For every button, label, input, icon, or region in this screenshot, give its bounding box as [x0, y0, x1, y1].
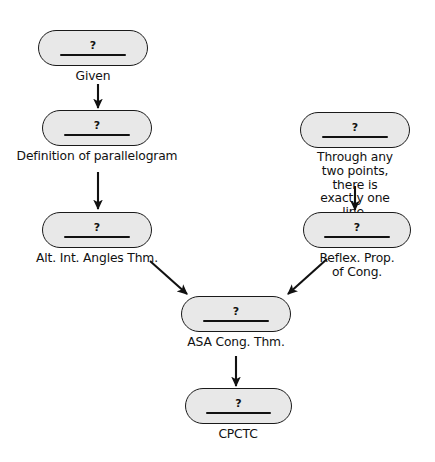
node-blank-placeholder: ? — [354, 222, 360, 233]
caption-two-points-line: Through any two points, there is exactly… — [315, 151, 395, 220]
node-answer-line[interactable] — [64, 236, 131, 238]
caption-reflex-prop: Reflex. Prop. of Cong. — [318, 252, 396, 280]
caption-given: Given — [76, 70, 111, 84]
node-two-points-line[interactable]: ? — [300, 112, 410, 148]
node-answer-line[interactable] — [322, 136, 389, 138]
node-cpctc[interactable]: ? — [185, 388, 292, 424]
node-answer-line[interactable] — [206, 412, 271, 414]
node-asa-cong[interactable]: ? — [181, 296, 291, 332]
node-blank-placeholder: ? — [233, 306, 239, 317]
node-given[interactable]: ? — [38, 30, 148, 66]
arrow-alt-to-asa — [150, 261, 187, 294]
node-alt-int-angles[interactable]: ? — [42, 212, 152, 248]
node-answer-line[interactable] — [60, 54, 127, 56]
node-blank-placeholder: ? — [235, 398, 241, 409]
caption-asa-cong: ASA Cong. Thm. — [187, 336, 284, 350]
node-reflex-prop[interactable]: ? — [303, 212, 411, 248]
node-def-parallelogram[interactable]: ? — [42, 110, 152, 146]
node-answer-line[interactable] — [64, 134, 131, 136]
caption-def-parallelogram: Definition of parallelogram — [17, 150, 178, 164]
caption-alt-int-angles: Alt. Int. Angles Thm. — [36, 252, 158, 266]
node-answer-line[interactable] — [324, 236, 390, 238]
node-blank-placeholder: ? — [90, 40, 96, 51]
caption-cpctc: CPCTC — [218, 428, 257, 442]
node-blank-placeholder: ? — [94, 222, 100, 233]
flowchart-proof-canvas: ? Given ? Definition of parallelogram ? … — [0, 0, 435, 462]
node-blank-placeholder: ? — [352, 122, 358, 133]
node-blank-placeholder: ? — [94, 120, 100, 131]
node-answer-line[interactable] — [203, 320, 270, 322]
